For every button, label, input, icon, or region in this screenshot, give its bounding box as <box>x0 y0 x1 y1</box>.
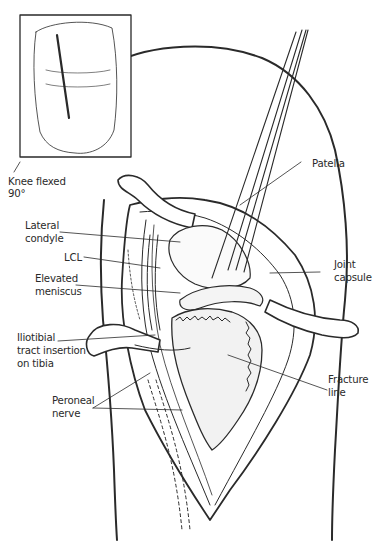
patella <box>169 226 250 289</box>
peroneal-nerve <box>148 380 182 530</box>
label-lcl: LCL <box>64 252 82 264</box>
label-iliotibial-3: on tibia <box>17 358 54 370</box>
lcl-band <box>147 235 152 330</box>
leg-outline-left <box>101 200 117 540</box>
leader-lateral-condyle <box>60 232 180 242</box>
label-patella: Patella <box>312 158 345 170</box>
label-elevated-meniscus-2: meniscus <box>35 286 82 298</box>
retractor-lower-left <box>87 325 160 356</box>
label-peroneal-nerve-1: Peroneal <box>52 395 94 407</box>
label-joint-capsule-1: Joint <box>334 259 356 271</box>
inset-frame <box>20 15 131 157</box>
label-iliotibial-2: tract insertion <box>17 345 86 357</box>
leader-elevated-meniscus <box>76 285 180 293</box>
label-iliotibial-1: Iliotibial <box>17 332 55 344</box>
label-lateral-condyle-2: condyle <box>25 233 64 245</box>
label-fracture-line-2: line <box>328 387 346 399</box>
inset-caption-line1: Knee flexed <box>8 176 66 188</box>
leader-inset <box>14 162 20 172</box>
label-peroneal-nerve-2: nerve <box>52 408 80 420</box>
label-fracture-line-1: Fracture <box>328 374 368 386</box>
leader-peroneal-2 <box>93 408 182 410</box>
retractor-upper-left <box>118 175 195 228</box>
label-joint-capsule-2: capsule <box>334 272 372 284</box>
label-lateral-condyle-1: Lateral <box>25 220 59 232</box>
knee-surgery-illustration <box>0 0 381 542</box>
inset-caption-line2: 90° <box>8 188 25 200</box>
label-elevated-meniscus-1: Elevated <box>35 273 78 285</box>
meniscus <box>180 286 263 310</box>
